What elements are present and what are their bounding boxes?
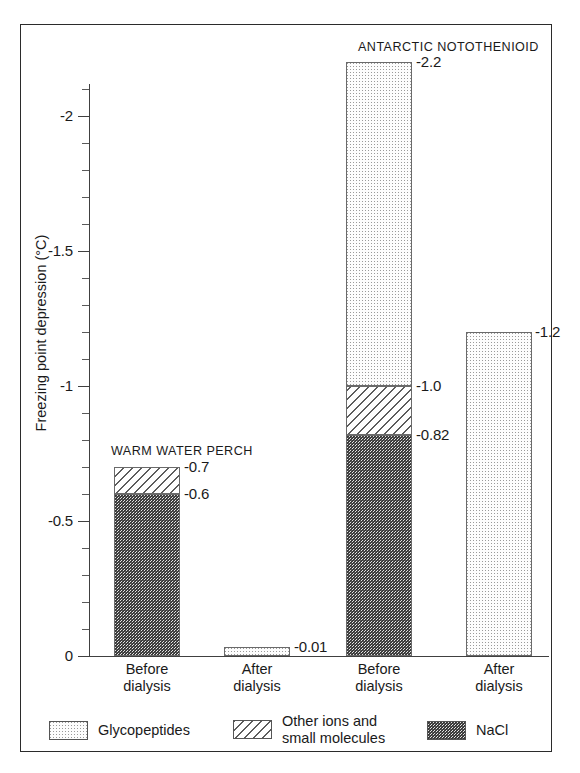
- value-label-perch-after-total: -0.01: [294, 638, 327, 655]
- value-label-notothenioid-before-nacl: -0.82: [416, 426, 449, 443]
- x-category-label-1: After dialysis: [192, 661, 322, 695]
- bar-notothenioid-after-dialysis[interactable]: [466, 332, 532, 656]
- y-minor-tick: [82, 440, 89, 441]
- legend-swatch-other-ions: [233, 720, 272, 739]
- y-tick-minus-1: -1: [78, 386, 89, 387]
- bar-segment-nacl: [114, 494, 180, 656]
- x-category-line-2: dialysis: [434, 678, 564, 695]
- y-minor-tick: [82, 575, 89, 576]
- bar-notothenioid-before-dialysis[interactable]: [346, 62, 412, 656]
- y-minor-tick: [82, 494, 89, 495]
- bar-segment-nacl: [346, 435, 412, 656]
- y-minor-tick: [82, 332, 89, 333]
- y-tick-label-0: 0: [65, 647, 73, 664]
- value-label-notothenioid-before-total: -2.2: [416, 53, 441, 70]
- group-label-warm-water-perch: WARM WATER PERCH: [111, 444, 253, 458]
- y-minor-tick: [82, 629, 89, 630]
- legend-item-nacl[interactable]: NaCl: [427, 721, 508, 740]
- group-label-antarctic-notothenioid: ANTARCTIC NOTOTHENIOID: [358, 40, 539, 54]
- y-tick-label-minus-1-5: -1.5: [48, 242, 73, 259]
- legend: Glycopeptides Other ions and small molec…: [21, 711, 553, 753]
- y-tick-label-minus-2: -2: [60, 107, 73, 124]
- bar-segment-glycopeptides: [346, 62, 412, 386]
- y-minor-tick: [82, 143, 89, 144]
- y-minor-tick: [82, 548, 89, 549]
- bar-segment-other-ions: [114, 467, 180, 494]
- y-minor-tick: [82, 413, 89, 414]
- y-minor-tick: [82, 602, 89, 603]
- value-label-notothenioid-after-total: -1.2: [535, 323, 560, 340]
- y-minor-tick: [82, 89, 89, 90]
- x-axis-line: [89, 656, 549, 657]
- bar-perch-before-dialysis[interactable]: [114, 467, 180, 656]
- legend-label-other-ions: Other ions and small molecules: [282, 713, 385, 746]
- y-tick-minus-1-5: -1.5: [78, 251, 89, 252]
- y-tick-label-minus-1: -1: [60, 377, 73, 394]
- y-minor-tick: [82, 278, 89, 279]
- y-minor-tick: [82, 305, 89, 306]
- y-axis-line: [89, 84, 90, 657]
- y-minor-tick: [82, 170, 89, 171]
- legend-label-glycopeptides: Glycopeptides: [98, 722, 190, 739]
- x-category-line-1: After: [434, 661, 564, 678]
- y-minor-tick: [82, 197, 89, 198]
- bar-segment-other-ions: [346, 386, 412, 435]
- value-label-perch-before-nacl: -0.6: [184, 485, 209, 502]
- plot-area: Freezing point depression (°C) 0 -0.5 -1…: [21, 25, 553, 753]
- bar-perch-after-dialysis[interactable]: [224, 647, 290, 656]
- x-category-line-1: Before: [314, 661, 444, 678]
- legend-label-nacl: NaCl: [476, 722, 508, 739]
- x-category-line-2: dialysis: [314, 678, 444, 695]
- y-tick-0: 0: [78, 656, 89, 657]
- y-tick-minus-0-5: -0.5: [78, 521, 89, 522]
- legend-swatch-glycopeptides: [49, 721, 88, 740]
- value-label-perch-before-total: -0.7: [184, 458, 209, 475]
- legend-item-glycopeptides[interactable]: Glycopeptides: [49, 721, 190, 740]
- y-minor-tick: [82, 359, 89, 360]
- y-minor-tick: [82, 224, 89, 225]
- y-axis-title: Freezing point depression (°C): [33, 168, 49, 498]
- x-category-line-2: dialysis: [192, 678, 322, 695]
- x-category-label-2: Before dialysis: [314, 661, 444, 695]
- legend-swatch-nacl: [427, 721, 466, 740]
- figure-frame: Freezing point depression (°C) 0 -0.5 -1…: [20, 24, 552, 752]
- value-label-notothenioid-before-other-ions: -1.0: [416, 377, 441, 394]
- legend-item-other-ions[interactable]: Other ions and small molecules: [233, 713, 385, 746]
- x-category-label-3: After dialysis: [434, 661, 564, 695]
- y-minor-tick: [82, 467, 89, 468]
- y-tick-label-minus-0-5: -0.5: [48, 512, 73, 529]
- bar-segment-glycopeptides: [224, 647, 290, 656]
- y-tick-minus-2: -2: [78, 116, 89, 117]
- bar-segment-glycopeptides: [466, 332, 532, 656]
- x-category-line-1: After: [192, 661, 322, 678]
